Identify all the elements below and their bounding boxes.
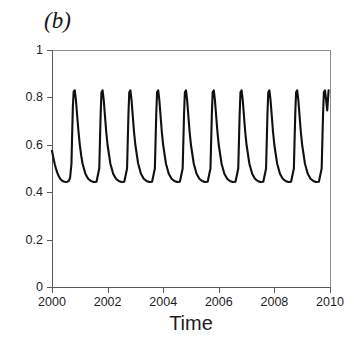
- panel-label: (b): [44, 8, 71, 34]
- x-tick-label: 2000: [38, 295, 66, 309]
- plot-frame-right: [330, 50, 331, 288]
- x-tick-label: 2002: [94, 295, 122, 309]
- y-tick-label: 0.6: [26, 138, 43, 152]
- data-series-oscillation: [52, 50, 330, 287]
- x-tick-label: 2006: [205, 295, 233, 309]
- x-tick-mark: [274, 287, 275, 293]
- x-tick-label: 2008: [260, 295, 288, 309]
- x-axis-title: Time: [52, 312, 330, 335]
- x-tick-mark: [330, 287, 331, 293]
- x-tick-mark: [52, 287, 53, 293]
- figure-panel-b: (b) 10.80.60.40.20 200020022004200620082…: [0, 0, 354, 351]
- y-tick-label: 0.2: [26, 233, 43, 247]
- x-tick-mark: [108, 287, 109, 293]
- x-tick-mark: [163, 287, 164, 293]
- x-axis-line: [52, 287, 331, 288]
- plot-area: 10.80.60.40.20 200020022004200620082010: [52, 50, 330, 287]
- y-tick-label: 0.8: [26, 90, 43, 104]
- x-tick-mark: [219, 287, 220, 293]
- y-tick-label: 1: [36, 43, 43, 57]
- x-tick-label: 2004: [149, 295, 177, 309]
- y-tick-label: 0.4: [26, 185, 43, 199]
- y-tick-label: 0: [36, 280, 43, 294]
- x-tick-label: 2010: [316, 295, 344, 309]
- series-line-path: [52, 90, 329, 182]
